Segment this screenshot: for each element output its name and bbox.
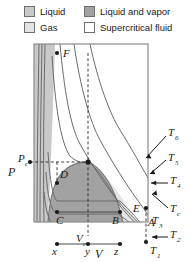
point-marker-F [55, 51, 59, 55]
label-x: x [51, 245, 57, 257]
pc-tick-label: P [17, 152, 25, 164]
point-marker-Pc [28, 160, 32, 164]
legend-swatch-supercritical-fluid-icon [84, 22, 95, 33]
point-marker-D [55, 181, 59, 185]
isotherm-label-T1-base: T [150, 244, 157, 256]
legend-label-supercritical-fluid: Supercritical fluid [100, 22, 172, 33]
legend-item-liquid: Liquid [24, 6, 65, 17]
legend-item-gas: Gas [24, 22, 57, 33]
legend-item-liquid-and-vapor: Liquid and vapor [84, 6, 170, 17]
pv-diagram-plot: P V P c V c F D C B x y z E A [0, 42, 191, 262]
isotherm-label-Tc-sub: c [177, 210, 181, 218]
isotherm-label-T1-sub: 1 [157, 252, 161, 260]
arrowhead-T2 [152, 235, 157, 240]
isotherm-label-T3-base: T [152, 214, 159, 226]
x-axis-label: V [95, 247, 104, 261]
point-marker-z [118, 242, 122, 246]
isotherm-label-T2-sub: 2 [177, 236, 181, 244]
legend-swatch-liquid-and-vapor-icon [84, 6, 95, 17]
label-y: y [84, 245, 90, 257]
point-marker-critical [85, 159, 90, 164]
legend-label-liquid-and-vapor: Liquid and vapor [100, 6, 170, 17]
legend-swatch-gas-icon [24, 22, 35, 33]
isotherm-label-T6: T 6 [168, 126, 179, 142]
isotherm-label-T4-sub: 4 [177, 182, 181, 190]
leader-arrow-Tc [152, 194, 168, 208]
phase-diagram-figure: Liquid Liquid and vapor Gas Supercritica… [0, 0, 191, 262]
isotherm-label-T4: T 4 [170, 174, 181, 190]
isotherm-label-T5-sub: 5 [175, 159, 179, 167]
label-D: D [59, 168, 68, 180]
legend-label-gas: Gas [40, 22, 57, 33]
isotherm-label-T1: T 1 [150, 244, 161, 260]
label-z: z [113, 245, 119, 257]
isotherm-label-Tc-base: T [170, 202, 177, 214]
point-marker-E [144, 206, 148, 210]
label-F: F [62, 47, 70, 59]
arrowhead-T4 [151, 181, 156, 186]
legend-swatch-liquid-icon [24, 6, 35, 17]
legend: Liquid Liquid and vapor Gas Supercritica… [0, 0, 191, 42]
isotherm-label-T2-base: T [170, 228, 177, 240]
isotherm-label-T5-base: T [168, 151, 175, 163]
label-C: C [56, 214, 64, 226]
isotherm-label-T6-sub: 6 [175, 134, 179, 142]
label-E: E [132, 202, 140, 214]
legend-label-liquid: Liquid [40, 6, 65, 17]
isotherm-label-T6-base: T [168, 126, 175, 138]
legend-item-supercritical-fluid: Supercritical fluid [84, 22, 172, 33]
point-marker-A [144, 240, 148, 244]
y-axis-label: P [7, 165, 16, 179]
isotherm-label-T2: T 2 [170, 228, 181, 244]
isotherm-label-Tc: T c [170, 202, 181, 218]
label-B: B [112, 214, 119, 226]
isotherm-label-T5: T 5 [168, 151, 179, 167]
isotherm-label-T4-base: T [170, 174, 177, 186]
isotherm-label-T3-sub: 3 [158, 222, 163, 230]
